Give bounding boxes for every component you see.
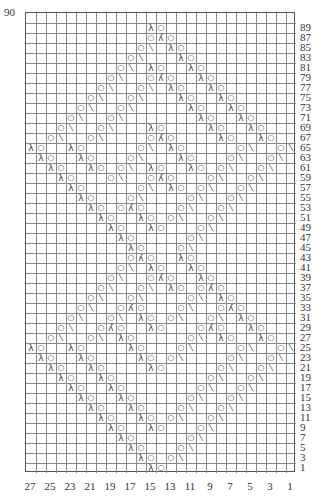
- k2tog-icon: ⁄: [66, 323, 76, 333]
- k2tog-icon: ⁄: [136, 193, 146, 203]
- k2tog-icon: ⁄: [146, 183, 156, 193]
- k2tog-icon: ⁄: [146, 83, 156, 93]
- double-decrease-icon: ʎ: [156, 273, 166, 283]
- ssk-icon: λ: [146, 23, 156, 33]
- k2tog-icon: ⁄: [236, 353, 246, 363]
- yarn-over-icon: ○: [86, 333, 96, 343]
- yarn-over-icon: ○: [116, 223, 126, 233]
- yarn-over-icon: ○: [196, 323, 206, 333]
- double-decrease-icon: ʎ: [156, 173, 166, 183]
- k2tog-icon: ⁄: [186, 243, 196, 253]
- double-decrease-icon: ʎ: [226, 303, 236, 313]
- yarn-over-icon: ○: [106, 113, 116, 123]
- yarn-over-icon: ○: [156, 163, 166, 173]
- k2tog-icon: ⁄: [226, 403, 236, 413]
- ssk-icon: λ: [66, 383, 76, 393]
- yarn-over-icon: ○: [156, 63, 166, 73]
- yarn-over-icon: ○: [56, 363, 66, 373]
- yarn-over-icon: ○: [76, 383, 86, 393]
- column-label: 17: [120, 480, 140, 492]
- yarn-over-icon: ○: [156, 123, 166, 133]
- yarn-over-icon: ○: [66, 313, 76, 323]
- yarn-over-icon: ○: [186, 333, 196, 343]
- ssk-icon: λ: [26, 143, 36, 153]
- k2tog-icon: ⁄: [266, 163, 276, 173]
- ssk-icon: λ: [136, 213, 146, 223]
- yarn-over-icon: ○: [156, 463, 166, 473]
- k2tog-icon: ⁄: [136, 293, 146, 303]
- k2tog-icon: ⁄: [236, 193, 246, 203]
- yarn-over-icon: ○: [116, 203, 126, 213]
- yarn-over-icon: ○: [136, 43, 146, 53]
- ssk-icon: λ: [146, 163, 156, 173]
- ssk-icon: λ: [116, 433, 126, 443]
- ssk-icon: λ: [126, 343, 136, 353]
- yarn-over-icon: ○: [226, 393, 236, 403]
- double-decrease-icon: ʎ: [206, 283, 216, 293]
- yarn-over-icon: ○: [166, 73, 176, 83]
- yarn-over-icon: ○: [216, 403, 226, 413]
- k2tog-icon: ⁄: [246, 183, 256, 193]
- ssk-icon: λ: [146, 363, 156, 373]
- ssk-icon: λ: [86, 403, 96, 413]
- yarn-over-icon: ○: [106, 313, 116, 323]
- top-row-label: 90: [4, 6, 15, 18]
- k2tog-icon: ⁄: [186, 303, 196, 313]
- yarn-over-icon: ○: [146, 73, 156, 83]
- column-label: 23: [60, 480, 80, 492]
- yarn-over-icon: ○: [166, 273, 176, 283]
- double-decrease-icon: ʎ: [106, 323, 116, 333]
- yarn-over-icon: ○: [146, 33, 156, 43]
- ssk-icon: λ: [136, 413, 146, 423]
- yarn-over-icon: ○: [226, 353, 236, 363]
- yarn-over-icon: ○: [36, 343, 46, 353]
- yarn-over-icon: ○: [166, 353, 176, 363]
- yarn-over-icon: ○: [146, 173, 156, 183]
- double-decrease-icon: ʎ: [206, 323, 216, 333]
- ssk-icon: λ: [176, 53, 186, 63]
- yarn-over-icon: ○: [96, 163, 106, 173]
- k2tog-icon: ⁄: [206, 383, 216, 393]
- yarn-over-icon: ○: [76, 303, 86, 313]
- ssk-icon: λ: [196, 73, 206, 83]
- ssk-icon: λ: [126, 243, 136, 253]
- yarn-over-icon: ○: [116, 63, 126, 73]
- yarn-over-icon: ○: [216, 203, 226, 213]
- ssk-icon: λ: [136, 313, 146, 323]
- yarn-over-icon: ○: [56, 123, 66, 133]
- column-label: 5: [240, 480, 260, 492]
- yarn-over-icon: ○: [186, 93, 196, 103]
- k2tog-icon: ⁄: [86, 303, 96, 313]
- yarn-over-icon: ○: [216, 323, 226, 333]
- ssk-icon: λ: [146, 63, 156, 73]
- ssk-icon: λ: [66, 343, 76, 353]
- yarn-over-icon: ○: [126, 333, 136, 343]
- yarn-over-icon: ○: [76, 183, 86, 193]
- column-label: 1: [280, 480, 300, 492]
- yarn-over-icon: ○: [246, 113, 256, 123]
- ssk-icon: λ: [46, 363, 56, 373]
- ssk-icon: λ: [96, 413, 106, 423]
- k2tog-icon: ⁄: [276, 153, 286, 163]
- yarn-over-icon: ○: [166, 133, 176, 143]
- grid-line: [66, 13, 67, 473]
- ssk-icon: λ: [186, 63, 196, 73]
- yarn-over-icon: ○: [166, 413, 176, 423]
- column-label: 19: [100, 480, 120, 492]
- yarn-over-icon: ○: [166, 33, 176, 43]
- yarn-over-icon: ○: [46, 333, 56, 343]
- double-decrease-icon: ʎ: [126, 203, 136, 213]
- yarn-over-icon: ○: [46, 153, 56, 163]
- yarn-over-icon: ○: [46, 133, 56, 143]
- yarn-over-icon: ○: [186, 393, 196, 403]
- yarn-over-icon: ○: [196, 103, 206, 113]
- ssk-icon: λ: [106, 383, 116, 393]
- ssk-icon: λ: [36, 153, 46, 163]
- k2tog-icon: ⁄: [136, 93, 146, 103]
- yarn-over-icon: ○: [176, 183, 186, 193]
- yarn-over-icon: ○: [126, 393, 136, 403]
- ssk-icon: λ: [26, 343, 36, 353]
- ssk-icon: λ: [106, 223, 116, 233]
- column-label: 25: [40, 480, 60, 492]
- yarn-over-icon: ○: [136, 143, 146, 153]
